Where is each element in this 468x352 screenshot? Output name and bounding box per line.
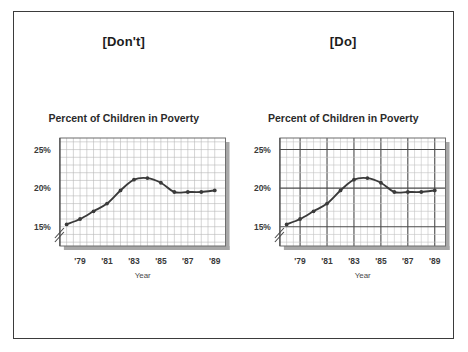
panel-tag-dont: [Don't]	[14, 34, 234, 49]
chart-title-do: Percent of Children in Poverty	[234, 112, 454, 124]
data-point-dont-1979	[78, 217, 82, 221]
data-point-do-1987	[405, 190, 409, 194]
x-tick-label-dont: '83	[128, 256, 140, 266]
data-point-do-1985	[378, 181, 382, 185]
data-point-do-1978	[284, 223, 288, 227]
x-tick-label-dont: '89	[209, 256, 221, 266]
x-tick-label-do: '83	[348, 256, 360, 266]
plot-area-dont: 15%20%25%'79'81'83'85'87'89Year	[14, 134, 234, 282]
y-tick-label-dont: 15%	[34, 222, 51, 232]
data-point-do-1986	[392, 190, 396, 194]
x-axis-label-do: Year	[354, 271, 370, 280]
chart-title-dont: Percent of Children in Poverty	[14, 112, 234, 124]
data-point-do-1982	[338, 189, 342, 193]
x-tick-label-dont: '85	[155, 256, 167, 266]
data-point-do-1983	[352, 178, 356, 182]
data-point-do-1979	[298, 217, 302, 221]
data-point-dont-1984	[146, 176, 150, 180]
data-point-dont-1980	[92, 209, 96, 213]
panel-do: [Do] Percent of Children in Poverty 15%2…	[234, 12, 454, 338]
plot-shadow-bottom-dont	[64, 246, 230, 250]
x-tick-label-do: '89	[429, 256, 441, 266]
data-point-do-1981	[325, 202, 329, 206]
data-point-do-1984	[365, 176, 369, 180]
y-tick-label-do: 20%	[253, 183, 270, 193]
data-point-dont-1981	[105, 202, 109, 206]
data-point-dont-1989	[213, 189, 217, 193]
line-chart-svg-do: 15%20%25%'79'81'83'85'87'89Year	[234, 134, 454, 282]
data-point-dont-1987	[186, 190, 190, 194]
panel-container: [Don't] Percent of Children in Poverty 1…	[14, 12, 453, 338]
x-tick-label-do: '81	[321, 256, 333, 266]
plot-area-do: 15%20%25%'79'81'83'85'87'89Year	[234, 134, 454, 282]
data-point-do-1988	[419, 190, 423, 194]
data-point-dont-1986	[172, 190, 176, 194]
data-point-do-1989	[432, 189, 436, 193]
x-axis-label-dont: Year	[135, 271, 151, 280]
y-tick-label-dont: 20%	[34, 183, 51, 193]
x-tick-label-do: '85	[375, 256, 387, 266]
data-point-dont-1985	[159, 181, 163, 185]
chart-dont: Percent of Children in Poverty 15%20%25%…	[14, 112, 234, 282]
x-tick-label-do: '79	[294, 256, 306, 266]
panel-tag-do: [Do]	[234, 34, 454, 49]
data-point-dont-1978	[65, 223, 69, 227]
chart-do: Percent of Children in Poverty 15%20%25%…	[234, 112, 454, 282]
y-tick-label-dont: 25%	[34, 145, 51, 155]
y-tick-label-do: 15%	[253, 222, 270, 232]
plot-shadow-bottom-do	[283, 246, 449, 250]
data-point-dont-1982	[119, 189, 123, 193]
panel-dont: [Don't] Percent of Children in Poverty 1…	[14, 12, 234, 338]
x-tick-label-dont: '87	[182, 256, 194, 266]
data-point-dont-1983	[132, 178, 136, 182]
figure-border: [Don't] Percent of Children in Poverty 1…	[13, 11, 454, 339]
plot-shadow-right-do	[445, 142, 449, 250]
x-tick-label-dont: '81	[101, 256, 113, 266]
plot-shadow-right-dont	[226, 142, 230, 250]
y-tick-label-do: 25%	[253, 145, 270, 155]
x-tick-label-do: '87	[402, 256, 414, 266]
line-chart-svg-dont: 15%20%25%'79'81'83'85'87'89Year	[14, 134, 234, 282]
x-tick-label-dont: '79	[74, 256, 86, 266]
data-point-do-1980	[311, 209, 315, 213]
data-point-dont-1988	[199, 190, 203, 194]
